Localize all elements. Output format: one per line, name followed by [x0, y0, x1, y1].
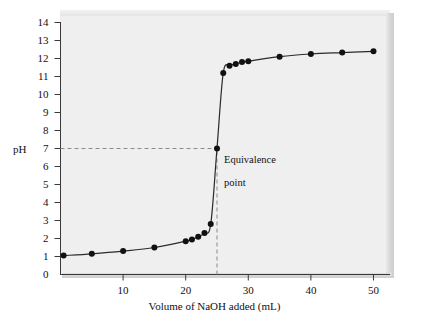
- y-axis-tick-label: 7: [27, 143, 49, 154]
- data-point-marker: [220, 70, 226, 76]
- y-axis-tick-label: 2: [27, 233, 49, 244]
- y-axis-tick-label: 12: [27, 53, 49, 64]
- data-point-marker: [208, 221, 214, 227]
- y-axis-tick-label: 6: [27, 161, 49, 172]
- y-axis-tick-label: 3: [27, 215, 49, 226]
- data-point-marker: [214, 146, 220, 152]
- y-axis-tick-label: 10: [27, 89, 49, 100]
- y-axis-tick-label: 14: [27, 17, 49, 28]
- y-axis-tick-label: 8: [27, 125, 49, 136]
- y-axis-tick-label: 5: [27, 179, 49, 190]
- data-point-marker: [227, 63, 233, 69]
- y-axis-ticks: [55, 23, 61, 257]
- x-axis-tick-label: 10: [110, 285, 136, 296]
- data-point-marker: [89, 251, 95, 257]
- data-point-marker: [195, 234, 201, 240]
- data-point-marker: [189, 236, 195, 242]
- titration-curve-line: [64, 51, 374, 255]
- x-axis-ticks: [123, 275, 373, 281]
- y-axis-tick-label: 13: [27, 35, 49, 46]
- x-axis-tick-label: 40: [298, 285, 324, 296]
- data-point-marker: [183, 238, 189, 244]
- data-point-marker: [120, 248, 126, 254]
- data-point-marker: [151, 245, 157, 251]
- y-axis-tick-label: 4: [27, 197, 49, 208]
- data-point-markers: [61, 48, 377, 258]
- data-point-marker: [370, 48, 376, 54]
- data-point-marker: [277, 54, 283, 60]
- data-point-marker: [245, 58, 251, 64]
- y-axis-tick-label: 11: [27, 71, 49, 82]
- data-point-marker: [308, 51, 314, 57]
- x-axis-tick-label: 20: [173, 285, 199, 296]
- chart-svg: [0, 0, 429, 323]
- y-axis-title: pH: [13, 144, 26, 155]
- data-point-marker: [239, 59, 245, 65]
- data-point-marker: [339, 50, 345, 56]
- y-axis-tick-label: 0: [27, 269, 49, 280]
- data-point-marker: [61, 253, 67, 259]
- titration-curve-figure: 01234567891011121314 1020304050 pH Volum…: [0, 0, 429, 323]
- x-axis-tick-label: 30: [235, 285, 261, 296]
- data-point-marker: [233, 61, 239, 67]
- y-axis-tick-label: 1: [27, 251, 49, 262]
- equivalence-point-annotation: Equivalence point: [224, 142, 276, 200]
- y-axis-tick-label: 9: [27, 107, 49, 118]
- equivalence-guide-lines: [61, 149, 217, 275]
- equivalence-point-annotation-line2: point: [224, 177, 276, 189]
- x-axis-tick-label: 50: [360, 285, 386, 296]
- equivalence-point-annotation-line1: Equivalence: [224, 154, 276, 166]
- x-axis-title: Volume of NaOH added (mL): [0, 300, 429, 312]
- data-point-marker: [201, 230, 207, 236]
